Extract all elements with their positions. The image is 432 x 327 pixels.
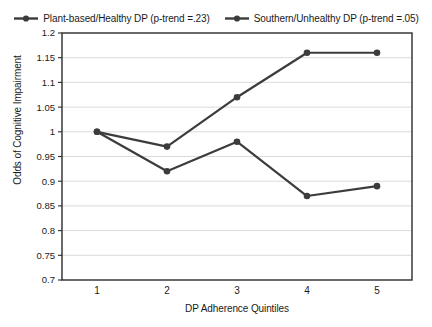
x-tick-label: 4 (304, 285, 310, 296)
y-tick-label: 0.7 (42, 274, 55, 285)
y-tick-label: 1 (50, 126, 55, 137)
y-tick-label: 1.05 (37, 102, 56, 113)
x-tick-labels-group: 12345 (94, 285, 380, 296)
y-tick-label: 0.9 (42, 176, 55, 187)
data-point[interactable] (304, 193, 311, 200)
y-tick-label: 0.85 (37, 200, 56, 211)
series-group (94, 49, 381, 199)
y-tick-label: 0.95 (37, 151, 56, 162)
data-point[interactable] (234, 138, 241, 145)
y-tick-label: 0.8 (42, 225, 55, 236)
chart-plot-area: 1.21.151.11.0510.950.90.850.80.750.7 123… (0, 0, 432, 327)
data-point[interactable] (374, 49, 381, 56)
data-point[interactable] (234, 94, 241, 101)
gridlines-group (62, 58, 412, 256)
data-point[interactable] (94, 129, 101, 136)
y-tick-label: 1.1 (42, 77, 55, 88)
x-tick-label: 3 (234, 285, 240, 296)
data-point[interactable] (164, 168, 171, 175)
y-tick-label: 1.2 (42, 27, 55, 38)
data-point[interactable] (304, 49, 311, 56)
y-tick-label: 0.75 (37, 250, 56, 261)
data-point[interactable] (164, 143, 171, 150)
x-tick-label: 1 (94, 285, 100, 296)
data-point[interactable] (374, 183, 381, 190)
x-tick-label: 2 (164, 285, 170, 296)
x-tick-label: 5 (374, 285, 380, 296)
y-tick-labels-group: 1.21.151.11.0510.950.90.850.80.750.7 (37, 27, 56, 285)
line-chart-svg: 1.21.151.11.0510.950.90.850.80.750.7 123… (0, 0, 432, 327)
y-tick-label: 1.15 (37, 52, 56, 63)
